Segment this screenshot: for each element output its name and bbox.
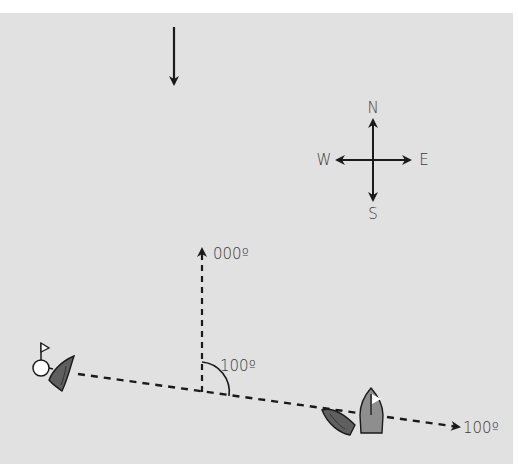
- compass-north-label: N: [367, 99, 378, 117]
- compass-east-label: E: [419, 151, 428, 169]
- heading-000-label: 000º: [213, 245, 249, 263]
- compass-south-label: S: [368, 205, 378, 223]
- compass-rose-icon: N S W E: [317, 99, 429, 223]
- angle-arc: 100º: [202, 357, 256, 396]
- boat-right-light-icon: [360, 388, 383, 433]
- angle-100-label: 100º: [220, 357, 256, 375]
- course-100-label: 100º: [463, 419, 499, 437]
- course-line: 100º: [78, 374, 499, 437]
- buoy-flag-icon: [33, 343, 53, 376]
- boat-left-icon: [49, 356, 74, 391]
- compass-west-label: W: [317, 151, 332, 169]
- sailing-diagram: N S W E 000º 100º 100º: [0, 0, 518, 473]
- boat-right-dark-icon: [322, 409, 355, 435]
